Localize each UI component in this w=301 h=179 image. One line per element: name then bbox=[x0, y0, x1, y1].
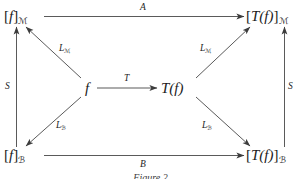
node-Tf-class-B: [T(f)]ℬ bbox=[246, 148, 286, 165]
subscript-B: ℬ bbox=[61, 125, 66, 131]
subscript-A: ℳ bbox=[64, 48, 70, 54]
label-center-arrow-T: T bbox=[124, 74, 129, 84]
figure-caption: Figure 2 bbox=[0, 172, 301, 179]
label-top-arrow-A: A bbox=[140, 3, 146, 13]
figure-caption-clip: Figure 2 bbox=[0, 172, 301, 179]
label-lower-left-diagonal-L-B: Lℬ bbox=[56, 121, 66, 132]
arrow-upper-left-diagonal-L-A bbox=[26, 27, 81, 78]
subscript-B: ℬ bbox=[207, 125, 212, 131]
label-right-vertical-S: S bbox=[288, 82, 293, 92]
label-upper-right-diagonal-L-A: Lℳ bbox=[200, 44, 211, 55]
node-Tf: T(f) bbox=[161, 81, 184, 96]
subscript-B: ℬ bbox=[18, 155, 25, 165]
node-f-class-A: [f]ℳ bbox=[4, 9, 28, 26]
node-label-Tf: T(f) bbox=[251, 8, 274, 24]
arrow-lower-left-diagonal-L-B bbox=[26, 97, 81, 146]
subscript-A: ℳ bbox=[279, 16, 289, 26]
node-label-Tf: T(f) bbox=[251, 147, 274, 163]
subscript-A: ℳ bbox=[18, 16, 28, 26]
label-left-vertical-S: S bbox=[5, 82, 10, 92]
node-Tf-class-A: [T(f)]ℳ bbox=[246, 9, 289, 26]
label-lower-right-diagonal-L-B: Lℬ bbox=[202, 121, 212, 132]
node-f: f bbox=[85, 81, 89, 96]
commutative-diagram: [f]ℳ [T(f)]ℳ [f]ℬ [T(f)]ℬ f T(f) A B S S… bbox=[0, 0, 301, 179]
subscript-A: ℳ bbox=[205, 48, 211, 54]
subscript-B: ℬ bbox=[279, 155, 286, 165]
node-f-class-B: [f]ℬ bbox=[4, 148, 25, 165]
label-bottom-arrow-B: B bbox=[140, 160, 146, 170]
label-upper-left-diagonal-L-A: Lℳ bbox=[59, 44, 70, 55]
